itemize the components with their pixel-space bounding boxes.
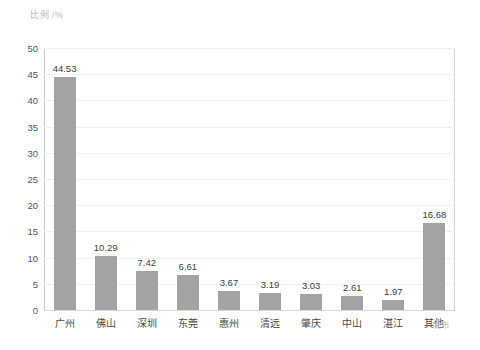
bar-value-label: 3.19	[261, 279, 280, 290]
x-axis-title: 城市	[432, 318, 450, 330]
x-axis-tick-label: 佛山	[96, 315, 116, 330]
bar-value-label: 7.42	[138, 257, 157, 268]
y-axis-tick-label: 45	[4, 69, 38, 80]
bar[interactable]	[382, 300, 404, 310]
grid-line	[44, 48, 455, 49]
bar-value-label: 3.03	[302, 280, 321, 291]
bar[interactable]	[259, 293, 281, 310]
bar-value-label: 16.68	[423, 209, 447, 220]
bar[interactable]	[54, 77, 76, 310]
grid-line	[44, 310, 455, 311]
bar[interactable]	[341, 296, 363, 310]
x-axis-tick-label: 肇庆	[301, 315, 321, 330]
y-axis-tick-label: 5	[4, 278, 38, 289]
x-axis-tick-label: 中山	[342, 315, 362, 330]
grid-line	[44, 127, 455, 128]
x-axis-tick-label: 清远	[260, 315, 280, 330]
y-axis-tick-label: 25	[4, 174, 38, 185]
y-axis-tick-label: 10	[4, 252, 38, 263]
x-axis-tick-label: 广州	[55, 315, 75, 330]
y-axis-tick-label: 20	[4, 200, 38, 211]
bar-value-label: 3.67	[220, 277, 239, 288]
bar-chart: 比例 /% 05101520253035404550 44.5310.297.4…	[0, 0, 480, 350]
grid-line	[44, 153, 455, 154]
x-axis-tick-label: 深圳	[137, 315, 157, 330]
grid-line	[44, 100, 455, 101]
bar[interactable]	[218, 291, 240, 310]
grid-line	[44, 205, 455, 206]
grid-line	[44, 74, 455, 75]
bar[interactable]	[177, 275, 199, 310]
x-axis-tick-label: 惠州	[219, 315, 239, 330]
y-axis-tick-label: 0	[4, 305, 38, 316]
plot-area: 44.5310.297.426.613.673.193.032.611.9716…	[44, 48, 455, 310]
y-axis-tick-label: 15	[4, 226, 38, 237]
y-axis-tick-label: 35	[4, 121, 38, 132]
bar[interactable]	[423, 223, 445, 310]
y-axis-tick-label: 50	[4, 43, 38, 54]
bar[interactable]	[95, 256, 117, 310]
x-axis-tick-label: 湛江	[383, 315, 403, 330]
bar-value-label: 10.29	[94, 242, 118, 253]
bar-value-label: 1.97	[384, 286, 403, 297]
bar[interactable]	[136, 271, 158, 310]
y-axis-tick-label: 30	[4, 147, 38, 158]
bar[interactable]	[300, 294, 322, 310]
bar-value-label: 2.61	[343, 282, 362, 293]
bar-value-label: 6.61	[179, 261, 198, 272]
x-axis-tick-label: 东莞	[178, 315, 198, 330]
grid-line	[44, 231, 455, 232]
y-axis-tick-label: 40	[4, 95, 38, 106]
y-axis-tick-labels: 05101520253035404550	[0, 0, 38, 350]
bar-value-label: 44.53	[53, 63, 77, 74]
grid-line	[44, 179, 455, 180]
